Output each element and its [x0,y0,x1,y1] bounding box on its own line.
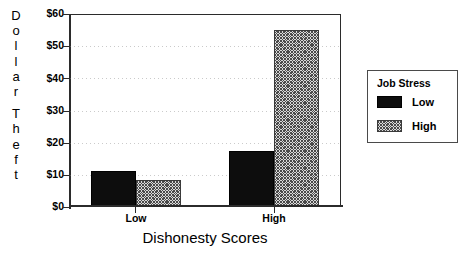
legend-title: Job Stress [377,77,431,89]
legend-label-high: High [412,119,436,133]
y-tick-label: $60 [28,8,64,19]
bar-high-dishonesty-low-stress [229,151,274,206]
y-axis-title-letter: f [4,152,28,167]
plot-area [69,14,341,207]
y-axis-title-letter: l [4,54,28,69]
y-tick-label: $30 [28,105,64,116]
bar-low-dishonesty-low-stress [91,171,136,206]
y-tick-label: $20 [28,137,64,148]
x-tick-label-low: Low [96,212,176,224]
y-axis-title-letter: o [4,23,28,38]
bar-high-dishonesty-high-stress [274,30,319,206]
y-tick-label: $10 [28,169,64,180]
y-axis-title-letter: T [4,106,28,121]
y-axis-title-letter: a [4,69,28,84]
y-axis-title-letter: e [4,137,28,152]
y-axis-title-letter: D [4,8,28,23]
y-axis-title-spacer [4,99,28,106]
y-axis-title-letter: l [4,38,28,53]
bar-chart: D o l l a r T h e f t $60 $50 $40 $30 $2… [0,0,472,261]
bar-low-dishonesty-high-stress [136,180,181,206]
y-axis-title: D o l l a r T h e f t [4,8,28,182]
y-tick-label: $50 [28,40,64,51]
legend-label-low: Low [412,95,434,109]
legend-swatch-high-icon [377,120,402,132]
y-tick-label: $40 [28,73,64,84]
x-tick-label-high: High [234,212,314,224]
y-axis-title-letter: t [4,167,28,182]
x-axis-title: Dishonesty Scores [69,229,341,246]
y-axis-title-letter: r [4,84,28,99]
y-tick-label: $0 [28,201,64,212]
y-axis-title-letter: h [4,121,28,136]
y-axis-tick-labels: $60 $50 $40 $30 $20 $10 $0 [26,0,64,261]
legend-box: Job Stress Low High [367,70,458,143]
legend-swatch-low-icon [377,96,402,108]
